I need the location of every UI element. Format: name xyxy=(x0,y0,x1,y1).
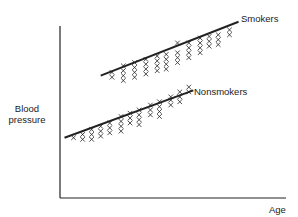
x-marker-icon xyxy=(216,32,221,37)
x-marker-icon xyxy=(157,104,162,109)
x-marker-icon xyxy=(187,50,192,55)
x-marker-icon xyxy=(128,116,133,121)
x-marker-icon xyxy=(121,73,126,78)
x-marker-icon xyxy=(137,113,142,118)
x-marker-icon xyxy=(155,64,160,69)
x-marker-icon xyxy=(107,131,112,136)
x-marker-icon xyxy=(137,122,142,127)
x-marker-icon xyxy=(155,68,160,73)
x-marker-icon xyxy=(144,72,149,77)
x-marker-icon xyxy=(89,132,94,137)
x-marker-icon xyxy=(121,68,126,73)
x-marker-icon xyxy=(216,42,221,47)
x-marker-icon xyxy=(71,135,76,140)
x-marker-icon xyxy=(227,28,232,33)
x-marker-icon xyxy=(80,132,85,137)
x-marker-icon xyxy=(198,41,203,46)
x-marker-icon xyxy=(187,46,192,51)
x-marker-icon xyxy=(119,119,124,124)
x-marker-icon xyxy=(187,55,192,60)
x-marker-icon xyxy=(187,85,192,90)
x-marker-icon xyxy=(98,129,103,134)
y-axis-label: Blood pressure xyxy=(6,103,48,125)
x-marker-icon xyxy=(148,108,153,113)
x-marker-icon xyxy=(121,78,126,83)
x-marker-icon xyxy=(198,50,203,55)
x-marker-icon xyxy=(164,62,169,67)
trend-line xyxy=(65,90,194,137)
x-marker-icon xyxy=(132,70,137,75)
x-marker-icon xyxy=(216,37,221,42)
x-marker-icon xyxy=(175,50,180,55)
x-axis-label: Age xyxy=(269,204,286,215)
x-marker-icon xyxy=(175,55,180,60)
data-points xyxy=(71,28,232,142)
x-marker-icon xyxy=(227,32,232,37)
x-marker-icon xyxy=(164,67,169,72)
trend-lines xyxy=(65,22,239,138)
trend-line xyxy=(101,22,239,76)
x-marker-icon xyxy=(107,126,112,131)
smokers-series-label: Smokers xyxy=(241,13,278,24)
x-marker-icon xyxy=(144,67,149,72)
x-marker-icon xyxy=(132,65,137,70)
x-marker-icon xyxy=(175,60,180,65)
x-marker-icon xyxy=(98,134,103,139)
x-marker-icon xyxy=(164,52,169,57)
x-marker-icon xyxy=(148,113,153,118)
x-marker-icon xyxy=(137,117,142,122)
x-marker-icon xyxy=(155,59,160,64)
x-marker-icon xyxy=(128,121,133,126)
x-marker-icon xyxy=(110,75,115,80)
x-marker-icon xyxy=(177,99,182,104)
nonsmokers-series-label: Nonsmokers xyxy=(194,86,247,97)
x-marker-icon xyxy=(80,137,85,142)
x-marker-icon xyxy=(119,129,124,134)
x-marker-icon xyxy=(119,124,124,129)
x-marker-icon xyxy=(207,39,212,44)
x-marker-icon xyxy=(198,46,203,51)
x-marker-icon xyxy=(207,44,212,49)
x-marker-icon xyxy=(144,62,149,67)
x-marker-icon xyxy=(89,137,94,142)
x-marker-icon xyxy=(157,114,162,119)
x-marker-icon xyxy=(157,109,162,114)
x-marker-icon xyxy=(164,57,169,62)
x-marker-icon xyxy=(132,75,137,80)
x-marker-icon xyxy=(177,90,182,95)
x-marker-icon xyxy=(168,103,173,108)
